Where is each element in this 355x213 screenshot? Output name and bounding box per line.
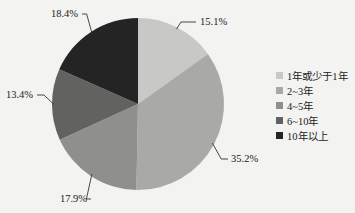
legend-item: 4~5年 bbox=[276, 98, 348, 113]
legend-item: 10年以上 bbox=[276, 128, 348, 143]
legend-label: 4~5年 bbox=[287, 98, 313, 113]
legend-swatch-icon bbox=[276, 72, 283, 79]
leader-line bbox=[176, 22, 196, 29]
legend-swatch-icon bbox=[276, 102, 283, 109]
legend: 1年或少于1年 2~3年 4~5年 6~10年 10年以上 bbox=[276, 68, 348, 143]
legend-label: 10年以上 bbox=[287, 128, 328, 143]
slice-percent-label: 18.4% bbox=[51, 8, 78, 19]
slice-percent-label: 13.4% bbox=[6, 89, 33, 100]
legend-swatch-icon bbox=[276, 87, 283, 94]
slice-percent-label: 15.1% bbox=[200, 16, 227, 27]
leader-line bbox=[212, 143, 228, 159]
leader-line bbox=[37, 95, 54, 105]
legend-label: 2~3年 bbox=[287, 83, 313, 98]
slice-percent-label: 35.2% bbox=[231, 153, 258, 164]
legend-swatch-icon bbox=[276, 132, 283, 139]
legend-label: 6~10年 bbox=[287, 113, 318, 128]
legend-swatch-icon bbox=[276, 117, 283, 124]
legend-item: 6~10年 bbox=[276, 113, 348, 128]
legend-label: 1年或少于1年 bbox=[287, 68, 348, 83]
slice-percent-label: 17.9% bbox=[60, 193, 87, 204]
legend-item: 2~3年 bbox=[276, 83, 348, 98]
legend-item: 1年或少于1年 bbox=[276, 68, 348, 83]
leader-line bbox=[82, 14, 92, 34]
leader-line bbox=[86, 174, 91, 199]
